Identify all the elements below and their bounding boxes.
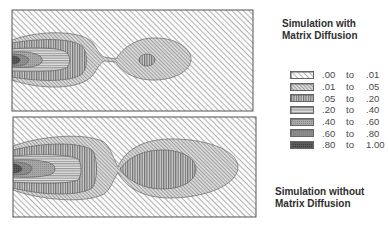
legend-to: .60: [366, 116, 389, 127]
legend-from: .60: [322, 128, 346, 139]
legend-item: .40to.60: [290, 116, 389, 128]
legend-from: .01: [322, 81, 346, 92]
bottom-title-line1: Simulation without: [275, 186, 364, 198]
legend-to: .80: [366, 128, 389, 139]
legend-sep: to: [346, 104, 366, 115]
legend-sep: to: [346, 139, 366, 150]
legend-sep: to: [346, 69, 366, 80]
hatch-dense-swatch-icon: [290, 83, 314, 91]
legend-from: .80: [322, 139, 346, 150]
bottom-panel: [13, 117, 256, 217]
contour-plots: [0, 0, 260, 227]
legend-sep: to: [346, 128, 366, 139]
vertical-lines-swatch-icon: [290, 94, 314, 102]
legend: .00to.01 .01to.05 .05to.20 .20to.40 .40t…: [290, 69, 389, 151]
legend-item: .00to.01: [290, 69, 389, 81]
legend-item: .01to.05: [290, 81, 389, 93]
legend-to: .40: [366, 104, 389, 115]
legend-item: .20to.40: [290, 104, 389, 116]
gray-fill-swatch-icon: [290, 129, 314, 137]
legend-to: .20: [366, 93, 389, 104]
legend-to: 1.00: [366, 139, 389, 150]
legend-from: .05: [322, 93, 346, 104]
top-title-line2: Matrix Diffusion: [282, 30, 358, 42]
legend-sep: to: [346, 93, 366, 104]
legend-item: .60to.80: [290, 127, 389, 139]
bottom-title-line2: Matrix Diffusion: [275, 198, 364, 210]
legend-from: .00: [322, 69, 346, 80]
top-panel: [12, 10, 253, 111]
top-title-line1: Simulation with: [282, 18, 358, 30]
hatch-sparse-swatch-icon: [290, 71, 314, 79]
legend-to: .05: [366, 81, 389, 92]
legend-from: .40: [322, 116, 346, 127]
dark-fill-swatch-icon: [290, 141, 314, 149]
horizontal-lines-swatch-icon: [290, 106, 314, 114]
legend-from: .20: [322, 104, 346, 115]
bottom-panel-title: Simulation without Matrix Diffusion: [275, 186, 364, 210]
legend-item: .80to1.00: [290, 139, 389, 151]
top-panel-title: Simulation with Matrix Diffusion: [282, 18, 358, 42]
legend-sep: to: [346, 116, 366, 127]
legend-sep: to: [346, 81, 366, 92]
legend-to: .01: [366, 69, 389, 80]
legend-item: .05to.20: [290, 92, 389, 104]
crosshatch-swatch-icon: [290, 118, 314, 126]
